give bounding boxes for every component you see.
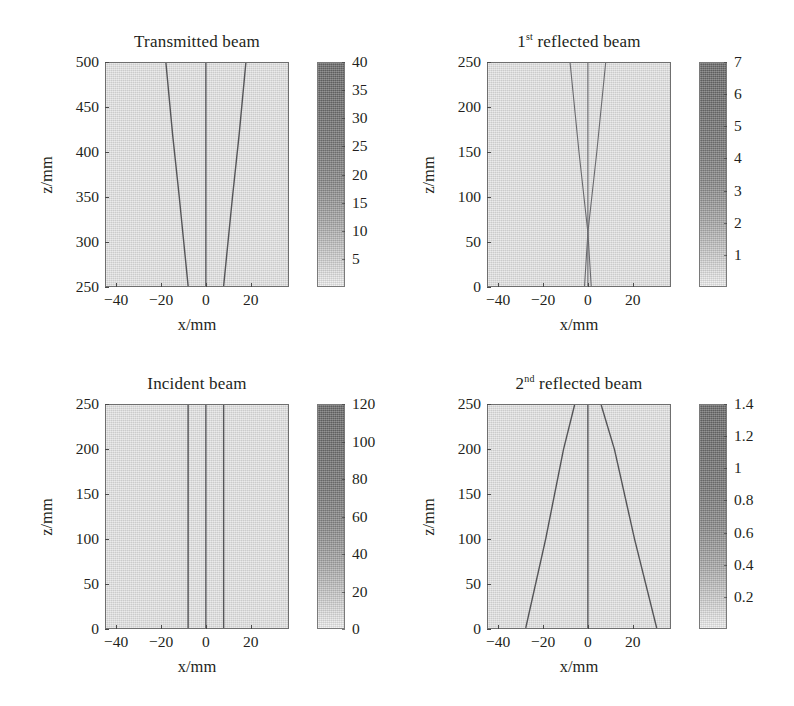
colorbar-tick-second-reflected-beam-6 xyxy=(724,404,727,405)
xaxis-label-second-reflected-beam: x/mm xyxy=(560,657,599,677)
yaxis-label-second-reflected-beam: z/mm xyxy=(419,498,439,536)
yticklabel-second-reflected-beam-0: 0 xyxy=(439,620,481,638)
ytick-second-reflected-beam-1 xyxy=(487,584,491,585)
plot-area-second-reflected-beam xyxy=(487,404,671,629)
colorbar-label-second-reflected-beam-0: 0.2 xyxy=(734,588,753,606)
xticklabel-second-reflected-beam-1: −20 xyxy=(531,633,555,651)
colorbar-label-second-reflected-beam-5: 1.2 xyxy=(734,427,753,445)
yticklabel-second-reflected-beam-5: 250 xyxy=(439,395,481,413)
colorbar-tick-second-reflected-beam-4 xyxy=(724,468,727,469)
colorbar-label-second-reflected-beam-1: 0.4 xyxy=(734,556,753,574)
ytick-second-reflected-beam-5 xyxy=(487,404,491,405)
panel-title-second-reflected-beam: 2nd reflected beam xyxy=(487,374,671,394)
ytick-second-reflected-beam-0 xyxy=(487,629,491,630)
ytick-second-reflected-beam-3 xyxy=(487,494,491,495)
xticklabel-second-reflected-beam-0: −40 xyxy=(486,633,510,651)
panel-second-reflected-beam: 2nd reflected beam−40−200200501001502002… xyxy=(0,0,794,706)
colorbar-label-second-reflected-beam-4: 1 xyxy=(734,459,742,477)
yticklabel-second-reflected-beam-4: 200 xyxy=(439,440,481,458)
colorbar-label-second-reflected-beam-3: 0.8 xyxy=(734,491,753,509)
yticklabel-second-reflected-beam-2: 100 xyxy=(439,530,481,548)
xtick-second-reflected-beam-3 xyxy=(633,625,634,629)
xtick-second-reflected-beam-2 xyxy=(588,625,589,629)
xtick-second-reflected-beam-1 xyxy=(543,625,544,629)
colorbar-tick-second-reflected-beam-1 xyxy=(724,565,727,566)
colorbar-label-second-reflected-beam-2: 0.6 xyxy=(734,524,753,542)
colorbar-texture-second-reflected-beam xyxy=(700,405,726,628)
ray-right-diverging-ray-second-reflected-beam xyxy=(601,405,656,628)
xticklabel-second-reflected-beam-2: 0 xyxy=(584,633,592,651)
colorbar-tick-second-reflected-beam-2 xyxy=(724,533,727,534)
yticklabel-second-reflected-beam-3: 150 xyxy=(439,485,481,503)
colorbar-tick-second-reflected-beam-0 xyxy=(724,597,727,598)
ray-left-diverging-ray-second-reflected-beam xyxy=(526,405,575,628)
colorbar-tick-second-reflected-beam-5 xyxy=(724,436,727,437)
colorbar-second-reflected-beam xyxy=(699,404,727,629)
colorbar-tick-second-reflected-beam-3 xyxy=(724,500,727,501)
ytick-second-reflected-beam-2 xyxy=(487,539,491,540)
yticklabel-second-reflected-beam-1: 50 xyxy=(439,575,481,593)
ytick-second-reflected-beam-4 xyxy=(487,449,491,450)
ray-overlay-second-reflected-beam xyxy=(488,405,670,628)
colorbar-label-second-reflected-beam-6: 1.4 xyxy=(734,395,753,413)
xtick-second-reflected-beam-0 xyxy=(498,625,499,629)
xticklabel-second-reflected-beam-3: 20 xyxy=(625,633,641,651)
figure-canvas: Transmitted beam−40−20020250300350400450… xyxy=(0,0,794,706)
